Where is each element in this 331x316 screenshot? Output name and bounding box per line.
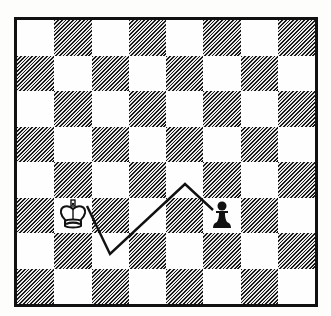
square-f8 (203, 20, 240, 56)
square-f4 (203, 162, 240, 198)
square-b6 (54, 91, 91, 127)
square-a4 (17, 162, 54, 198)
diagram-canvas (0, 0, 331, 316)
chessboard-frame (14, 17, 318, 307)
square-g3 (241, 198, 278, 234)
square-g1 (241, 269, 278, 305)
square-a8 (17, 20, 54, 56)
square-a6 (17, 91, 54, 127)
square-c6 (92, 91, 129, 127)
square-c4 (92, 162, 129, 198)
square-h2 (278, 233, 315, 269)
square-a3 (17, 198, 54, 234)
square-b7 (54, 56, 91, 92)
square-d4 (129, 162, 166, 198)
square-d7 (129, 56, 166, 92)
square-e2 (166, 233, 203, 269)
square-g5 (241, 127, 278, 163)
square-a2 (17, 233, 54, 269)
square-f7 (203, 56, 240, 92)
square-c5 (92, 127, 129, 163)
square-h8 (278, 20, 315, 56)
square-f1 (203, 269, 240, 305)
square-h1 (278, 269, 315, 305)
square-h7 (278, 56, 315, 92)
square-e7 (166, 56, 203, 92)
square-d3 (129, 198, 166, 234)
square-a7 (17, 56, 54, 92)
square-e6 (166, 91, 203, 127)
square-c2 (92, 233, 129, 269)
square-b4 (54, 162, 91, 198)
square-g4 (241, 162, 278, 198)
square-a5 (17, 127, 54, 163)
white-king-piece (54, 198, 91, 234)
square-e4 (166, 162, 203, 198)
square-d6 (129, 91, 166, 127)
square-c8 (92, 20, 129, 56)
chessboard (17, 20, 315, 304)
square-e3 (166, 198, 203, 234)
square-h6 (278, 91, 315, 127)
square-g7 (241, 56, 278, 92)
black-pawn-icon (209, 200, 235, 230)
square-c7 (92, 56, 129, 92)
square-e5 (166, 127, 203, 163)
square-h5 (278, 127, 315, 163)
square-d5 (129, 127, 166, 163)
square-a1 (17, 269, 54, 305)
white-king-icon (58, 199, 88, 231)
square-f6 (203, 91, 240, 127)
square-c1 (92, 269, 129, 305)
black-pawn-piece (203, 198, 240, 234)
square-g2 (241, 233, 278, 269)
square-d8 (129, 20, 166, 56)
square-d2 (129, 233, 166, 269)
square-b8 (54, 20, 91, 56)
square-h4 (278, 162, 315, 198)
square-h3 (278, 198, 315, 234)
square-c3 (92, 198, 129, 234)
square-f2 (203, 233, 240, 269)
square-b2 (54, 233, 91, 269)
square-e1 (166, 269, 203, 305)
square-d1 (129, 269, 166, 305)
square-g6 (241, 91, 278, 127)
square-f5 (203, 127, 240, 163)
square-g8 (241, 20, 278, 56)
square-b1 (54, 269, 91, 305)
square-b5 (54, 127, 91, 163)
square-e8 (166, 20, 203, 56)
